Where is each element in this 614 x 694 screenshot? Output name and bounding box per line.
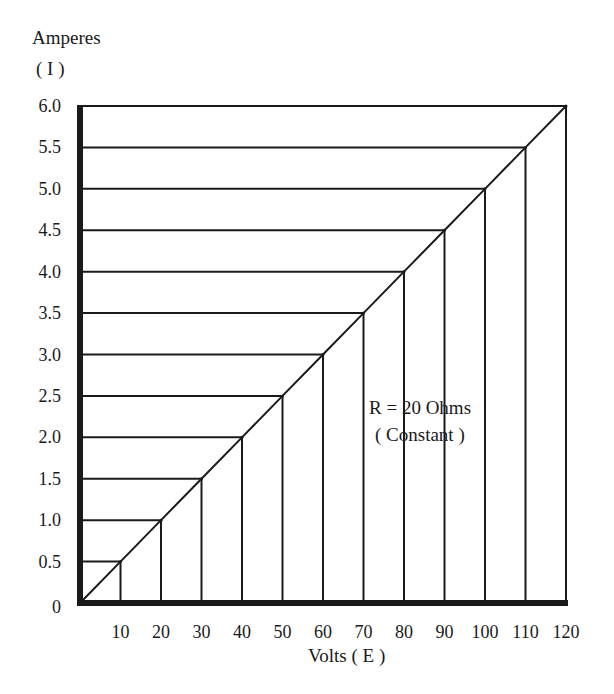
y-axis-label: Amperes — [32, 27, 101, 48]
y-tick-label: 2.5 — [39, 386, 62, 406]
y-tick-label: 3.5 — [39, 303, 62, 323]
y-tick-label: 0 — [52, 597, 61, 617]
y-tick-labels: 00.51.01.52.02.53.03.54.04.55.05.56.0 — [39, 96, 62, 617]
annotation-resistance: R = 20 Ohms — [369, 397, 471, 418]
y-tick-label: 1.0 — [39, 510, 62, 530]
y-tick-label: 3.0 — [39, 345, 62, 365]
x-tick-label: 100 — [472, 622, 499, 642]
annotation-constant: ( Constant ) — [375, 424, 465, 446]
x-axis-label: Volts ( E ) — [308, 645, 385, 667]
y-tick-label: 1.5 — [39, 469, 62, 489]
x-tick-labels: 102030405060708090100110120 — [112, 622, 580, 642]
x-tick-label: 90 — [436, 622, 454, 642]
x-tick-label: 30 — [193, 622, 211, 642]
x-tick-label: 80 — [395, 622, 413, 642]
y-tick-label: 2.0 — [39, 427, 62, 447]
ohms-law-chart: 102030405060708090100110120 00.51.01.52.… — [0, 0, 614, 694]
x-tick-label: 70 — [355, 622, 373, 642]
y-tick-label: 4.5 — [39, 220, 62, 240]
y-axis-symbol: ( I ) — [36, 58, 64, 80]
x-tick-label: 20 — [152, 622, 170, 642]
y-tick-label: 0.5 — [39, 552, 62, 572]
x-tick-label: 50 — [274, 622, 292, 642]
y-tick-label: 4.0 — [39, 262, 62, 282]
y-tick-label: 6.0 — [39, 96, 62, 116]
x-tick-label: 40 — [233, 622, 251, 642]
x-tick-label: 60 — [314, 622, 332, 642]
x-tick-label: 10 — [112, 622, 130, 642]
x-tick-label: 120 — [553, 622, 580, 642]
y-tick-label: 5.0 — [39, 179, 62, 199]
x-tick-label: 110 — [512, 622, 538, 642]
y-tick-label: 5.5 — [39, 137, 62, 157]
